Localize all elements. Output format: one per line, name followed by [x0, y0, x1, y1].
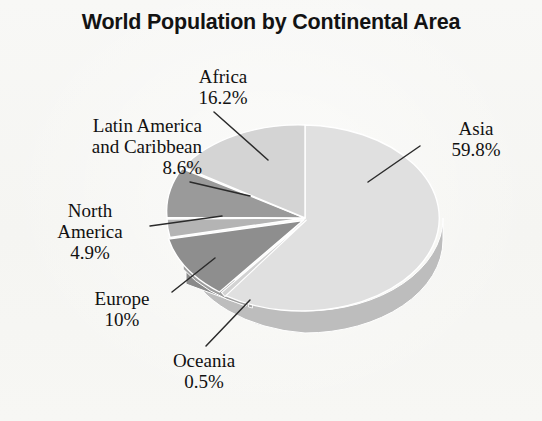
slice-label-europe: Europe 10%	[70, 288, 174, 330]
chart-page: World Population by Continental Area	[0, 0, 542, 421]
slice-label-latin-america: Latin America and Caribbean 8.6%	[16, 115, 202, 178]
slice-label-oceania-value: 0.5%	[148, 371, 260, 392]
slice-label-north-america-name-line2: America	[57, 221, 122, 242]
slice-label-oceania-name: Oceania	[173, 350, 235, 371]
slice-label-africa: Africa 16.2%	[163, 66, 283, 108]
slice-label-north-america-name-line1: North	[68, 200, 112, 221]
slice-label-africa-value: 16.2%	[163, 87, 283, 108]
slice-label-asia: Asia 59.8%	[424, 118, 528, 160]
slice-label-asia-name: Asia	[459, 118, 494, 139]
slice-label-africa-name: Africa	[199, 66, 248, 87]
slice-label-latin-america-name-line1: Latin America	[93, 115, 202, 136]
slice-label-latin-america-name-line2: and Caribbean	[92, 136, 202, 157]
slice-label-europe-name: Europe	[95, 288, 150, 309]
slice-label-north-america: North America 4.9%	[28, 200, 152, 263]
slice-label-latin-america-value: 8.6%	[16, 157, 202, 178]
slice-label-north-america-value: 4.9%	[28, 242, 152, 263]
slice-label-asia-value: 59.8%	[424, 139, 528, 160]
slice-label-oceania: Oceania 0.5%	[148, 350, 260, 392]
slice-label-europe-value: 10%	[70, 309, 174, 330]
